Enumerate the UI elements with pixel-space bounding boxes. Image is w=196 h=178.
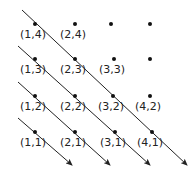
point-label: (4,2): [135, 100, 161, 113]
grid-point: [148, 94, 152, 98]
point-label: (1,4): [20, 28, 46, 41]
grid-point: [33, 57, 37, 61]
point-label: (2,3): [60, 63, 86, 76]
grid-point: [33, 94, 37, 98]
point-label: (2,4): [60, 28, 86, 41]
point-labels: (1,4)(2,4)(1,3)(2,3)(3,3)(1,2)(2,2)(3,2)…: [20, 28, 163, 149]
grid-point: [73, 130, 77, 134]
point-label: (2,1): [60, 136, 86, 149]
grid-point: [73, 57, 77, 61]
point-label: (3,2): [98, 100, 124, 113]
point-label: (1,1): [20, 136, 46, 149]
grid-point: [113, 130, 117, 134]
grid-point: [112, 57, 116, 61]
diagonal-enumeration-diagram: (1,4)(2,4)(1,3)(2,3)(3,3)(1,2)(2,2)(3,2)…: [0, 0, 196, 178]
grid-point: [73, 22, 77, 26]
point-label: (3,1): [100, 136, 126, 149]
point-label: (4,1): [137, 136, 163, 149]
grid-point: [73, 94, 77, 98]
grid-point: [150, 130, 154, 134]
point-label: (1,2): [20, 100, 46, 113]
grid-point: [148, 22, 152, 26]
diagonal-arrow-2: [18, 82, 110, 165]
grid-point: [33, 130, 37, 134]
point-label: (1,3): [20, 63, 46, 76]
grid-point: [111, 94, 115, 98]
point-label: (3,3): [99, 63, 125, 76]
grid-point: [109, 22, 113, 26]
grid-point: [148, 57, 152, 61]
grid-point: [33, 22, 37, 26]
point-label: (2,2): [60, 100, 86, 113]
